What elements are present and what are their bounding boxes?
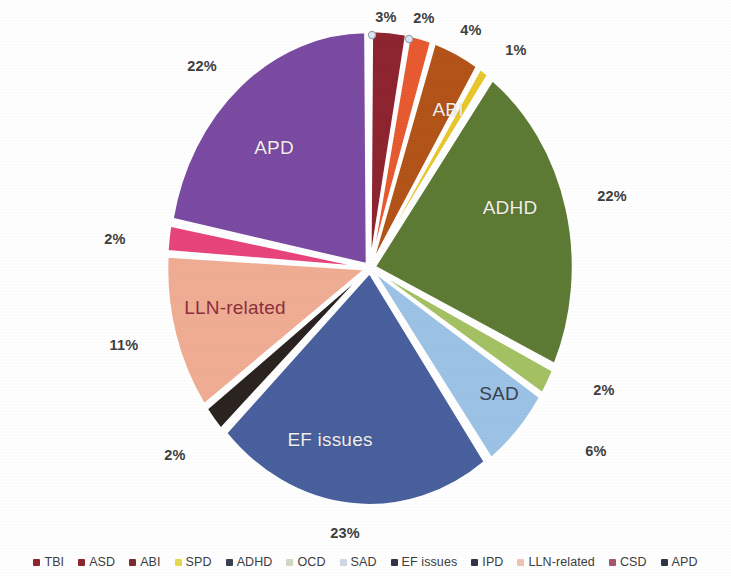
percent-label-abi: 4% xyxy=(460,22,481,38)
legend-label: TBI xyxy=(44,555,64,569)
legend-item-spd[interactable]: SPD xyxy=(175,555,212,569)
legend-swatch-icon xyxy=(33,559,40,566)
legend-swatch-icon xyxy=(286,559,293,566)
legend-item-apd[interactable]: APD xyxy=(661,555,698,569)
legend-label: SPD xyxy=(186,555,212,569)
percent-label-adhd: 22% xyxy=(597,188,627,204)
legend-label: ABI xyxy=(140,555,160,569)
legend-item-adhd[interactable]: ADHD xyxy=(226,555,273,569)
percent-label-ef-issues: 23% xyxy=(330,525,360,541)
legend-item-ef-issues[interactable]: EF issues xyxy=(391,555,458,569)
legend-label: IPD xyxy=(482,555,503,569)
legend-swatch-icon xyxy=(661,559,668,566)
legend-item-sad[interactable]: SAD xyxy=(340,555,377,569)
legend-swatch-icon xyxy=(340,559,347,566)
legend-item-ocd[interactable]: OCD xyxy=(286,555,325,569)
pie-svg xyxy=(0,0,731,540)
percent-label-spd: 1% xyxy=(505,42,526,58)
legend-swatch-icon xyxy=(226,559,233,566)
legend-label: LLN-related xyxy=(528,555,594,569)
legend-item-abi[interactable]: ABI xyxy=(129,555,160,569)
pie-slices-group xyxy=(167,31,573,505)
legend-item-asd[interactable]: ASD xyxy=(78,555,115,569)
legend-label: ASD xyxy=(89,555,115,569)
percent-label-sad: 6% xyxy=(585,443,606,459)
legend-label: CSD xyxy=(620,555,647,569)
pie-chart: ABIADHDSADEF issuesLLN-relatedAPD 3%2%4%… xyxy=(0,0,731,576)
leader-dot-tbi xyxy=(368,31,375,38)
percent-label-asd: 2% xyxy=(413,10,434,26)
legend-item-lln-related[interactable]: LLN-related xyxy=(517,555,594,569)
legend-swatch-icon xyxy=(471,559,478,566)
percent-label-lln-related: 11% xyxy=(110,337,139,353)
legend-swatch-icon xyxy=(175,559,182,566)
percent-label-apd: 22% xyxy=(187,58,217,74)
legend-swatch-icon xyxy=(517,559,524,566)
legend-label: APD xyxy=(672,555,698,569)
legend-item-csd[interactable]: CSD xyxy=(609,555,647,569)
legend-item-tbi[interactable]: TBI xyxy=(33,555,64,569)
percent-label-ocd: 2% xyxy=(593,382,614,398)
legend-item-ipd[interactable]: IPD xyxy=(471,555,503,569)
chart-legend: TBIASDABISPDADHDOCDSADEF issuesIPDLLN-re… xyxy=(0,548,731,576)
percent-label-csd: 2% xyxy=(104,231,125,247)
legend-label: OCD xyxy=(297,555,325,569)
legend-swatch-icon xyxy=(391,559,398,566)
percent-label-tbi: 3% xyxy=(375,9,396,25)
legend-swatch-icon xyxy=(609,559,616,566)
legend-label: ADHD xyxy=(237,555,273,569)
legend-label: EF issues xyxy=(402,555,458,569)
percent-label-ipd: 2% xyxy=(164,447,185,463)
leader-dot-asd xyxy=(405,35,412,42)
legend-swatch-icon xyxy=(78,559,85,566)
pie-plot-area: ABIADHDSADEF issuesLLN-relatedAPD 3%2%4%… xyxy=(0,0,731,540)
legend-swatch-icon xyxy=(129,559,136,566)
legend-label: SAD xyxy=(351,555,377,569)
